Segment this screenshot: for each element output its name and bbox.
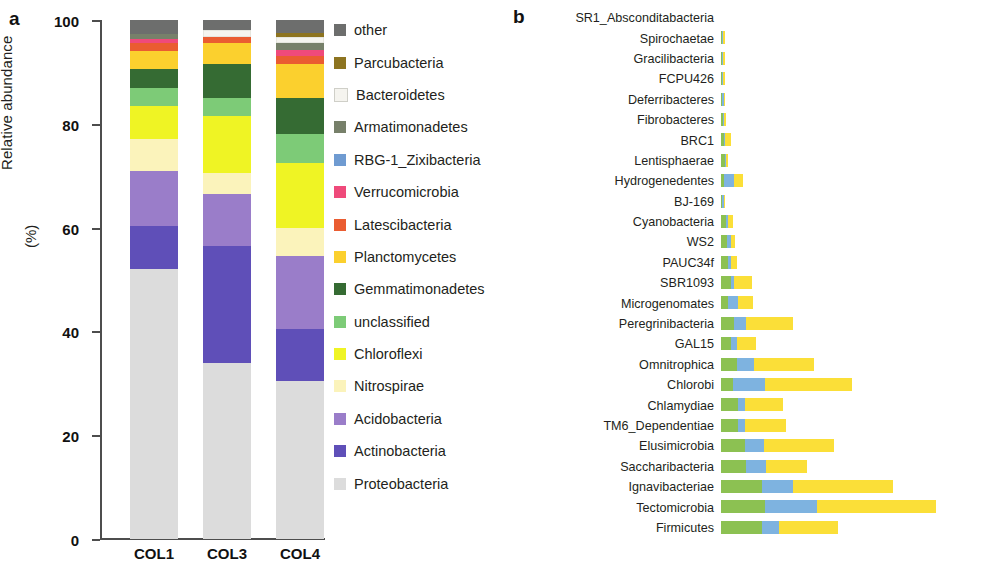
panel-a-segment	[276, 50, 324, 57]
panel-b-stacked-bar	[721, 31, 725, 44]
panel-b-bar-track	[721, 69, 1006, 89]
panel-a-legend-label: Parcubacteria	[354, 55, 443, 71]
panel-b-row-label: WS2	[510, 235, 721, 249]
panel-b-row-label: Gracilibacteria	[510, 52, 721, 66]
panel-a-y-tick: 100	[92, 20, 100, 22]
panel-a-legend-label: Gemmatimonadetes	[354, 281, 485, 297]
panel-b-segment-col4	[724, 195, 725, 208]
legend-swatch-icon	[334, 445, 346, 457]
panel-a-segment	[130, 20, 178, 34]
panel-b-row-label: Microgenomates	[510, 297, 721, 311]
panel-b-segment-col4	[765, 378, 852, 391]
panel-b-stacked-bar	[721, 72, 725, 85]
panel-b-bar-track	[721, 8, 1006, 28]
panel-b-row-label: Lentisphaerae	[510, 154, 721, 168]
panel-a-y-tick-label: 40	[62, 324, 79, 341]
panel-a-segment	[203, 246, 251, 363]
panel-b-row: Chlorobi	[510, 375, 1006, 395]
panel-a-legend-item-armatimonadetes[interactable]: Armatimonadetes	[334, 111, 514, 143]
panel-a-legend-item-chloroflexi[interactable]: Chloroflexi	[334, 338, 514, 370]
panel-a-legend-item-actinobacteria[interactable]: Actinobacteria	[334, 435, 514, 467]
panel-b-horizontal-bar-chart: b SR1_AbsconditabacteriaSpirochaetaeGrac…	[510, 0, 1006, 586]
panel-b-segment-col4	[734, 174, 744, 187]
panel-a-legend-item-planctomycetes[interactable]: Planctomycetes	[334, 241, 514, 273]
panel-b-row: Fibrobacteres	[510, 110, 1006, 130]
panel-a-y-tick: 40	[92, 331, 100, 333]
legend-swatch-icon	[334, 316, 346, 328]
panel-a-legend-item-parcubacteria[interactable]: Parcubacteria	[334, 46, 514, 78]
panel-b-row: Saccharibacteria	[510, 457, 1006, 477]
panel-a-legend-item-proteobacteria[interactable]: Proteobacteria	[334, 467, 514, 499]
panel-b-segment-col1	[721, 276, 731, 289]
legend-swatch-icon	[334, 283, 346, 295]
panel-a-y-tick-label: 80	[62, 116, 79, 133]
panel-b-row-label: SR1_Absconditabacteria	[510, 11, 721, 25]
panel-a-y-tick-label: 20	[62, 428, 79, 445]
panel-b-bar-track	[721, 293, 1006, 313]
panel-a-legend-item-unclassified[interactable]: unclassified	[334, 306, 514, 338]
panel-b-segment-col1	[721, 296, 728, 309]
panel-b-segment-col3	[762, 480, 793, 493]
panel-b-row-label: Ignavibacteriae	[510, 480, 721, 494]
panel-b-stacked-bar	[721, 378, 852, 391]
panel-a-legend-item-bacteroidetes[interactable]: Bacteroidetes	[334, 79, 514, 111]
panel-a-segment	[130, 139, 178, 171]
panel-b-segment-col3	[724, 174, 734, 187]
panel-a-segment	[276, 37, 324, 44]
panel-b-row-label: Deferribacteres	[510, 93, 721, 107]
legend-swatch-icon	[334, 154, 346, 166]
panel-b-row-label: Omnitrophica	[510, 358, 721, 372]
panel-b-row-label: Peregrinibacteria	[510, 317, 721, 331]
panel-b-segment-col3	[734, 317, 746, 330]
panel-b-segment-col3	[762, 521, 779, 534]
panel-a-legend-item-nitrospirae[interactable]: Nitrospirae	[334, 370, 514, 402]
panel-a-legend-item-rbg-1-zixibacteria[interactable]: RBG-1_Zixibacteria	[334, 144, 514, 176]
panel-b-row: Tectomicrobia	[510, 497, 1006, 517]
panel-a-y-tick: 60	[92, 228, 100, 230]
panel-a-y-tick-label: 60	[62, 220, 79, 237]
panel-a-y-tick: 80	[92, 124, 100, 126]
panel-a-segment	[130, 226, 178, 269]
panel-a-legend-item-verrucomicrobia[interactable]: Verrucomicrobia	[334, 176, 514, 208]
panel-b-segment-col1	[721, 521, 762, 534]
panel-a-bar-col4	[276, 20, 324, 539]
panel-a-segment	[203, 98, 251, 116]
panel-a-segment	[203, 43, 251, 64]
panel-a-legend-label: Nitrospirae	[354, 378, 424, 394]
panel-a-bar-col3	[203, 20, 251, 539]
panel-a-segment	[203, 64, 251, 98]
panel-b-row-label: FCPU426	[510, 72, 721, 86]
panel-a-legend-label: Planctomycetes	[354, 249, 456, 265]
panel-b-bar-track	[721, 395, 1006, 415]
panel-b-stacked-bar	[721, 256, 737, 269]
panel-b-row-label: Elusimicrobia	[510, 439, 721, 453]
panel-b-segment-col3	[765, 500, 817, 513]
panel-b-stacked-bar	[721, 195, 725, 208]
panel-b-row-label: Chlamydiae	[510, 399, 721, 413]
panel-a-segment	[130, 171, 178, 226]
panel-b-segment-col3	[738, 398, 745, 411]
panel-b-row-label: Tectomicrobia	[510, 501, 721, 515]
panel-a-legend-item-acidobacteria[interactable]: Acidobacteria	[334, 403, 514, 435]
panel-b-bar-track	[721, 192, 1006, 212]
panel-b-segment-col1	[721, 419, 738, 432]
panel-a-legend-item-latescibacteria[interactable]: Latescibacteria	[334, 208, 514, 240]
panel-a-legend-item-other[interactable]: other	[334, 14, 514, 46]
panel-b-row: SBR1093	[510, 273, 1006, 293]
panel-a-category-label-col1: COL1	[130, 545, 178, 562]
panel-b-segment-col4	[737, 337, 756, 350]
panel-a-legend-label: unclassified	[354, 314, 430, 330]
panel-a-legend-item-gemmatimonadetes[interactable]: Gemmatimonadetes	[334, 273, 514, 305]
panel-b-bar-track	[721, 477, 1006, 497]
panel-b-bar-track	[721, 416, 1006, 436]
panel-b-row-label: Hydrogenedentes	[510, 174, 721, 188]
panel-a-segment	[203, 194, 251, 246]
panel-b-segment-col4	[764, 439, 834, 452]
panel-a-legend-label: Proteobacteria	[354, 476, 448, 492]
panel-b-segment-col4	[779, 521, 838, 534]
panel-a-y-tick-label: 100	[54, 13, 79, 30]
panel-a-stacked-bar-chart: a Relative abundance (%) 020406080100 CO…	[0, 0, 510, 586]
panel-b-stacked-bar	[721, 296, 753, 309]
panel-b-segment-col4	[724, 93, 725, 106]
panel-b-row-label: Cyanobacteria	[510, 215, 721, 229]
